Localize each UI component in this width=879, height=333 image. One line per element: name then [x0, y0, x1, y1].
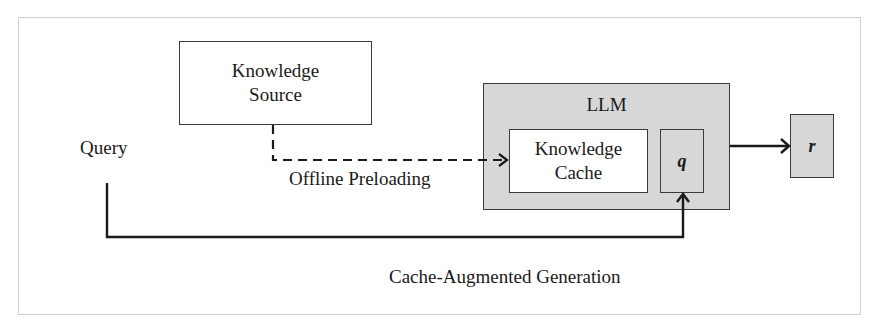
query-label: Query	[80, 136, 127, 159]
query-edge	[107, 183, 689, 237]
offline-preloading-label: Offline Preloading	[289, 167, 431, 190]
diagram-caption: Cache-Augmented Generation	[389, 265, 621, 288]
offline-preloading-edge	[273, 125, 507, 166]
llm-to-response-edge	[730, 139, 789, 153]
